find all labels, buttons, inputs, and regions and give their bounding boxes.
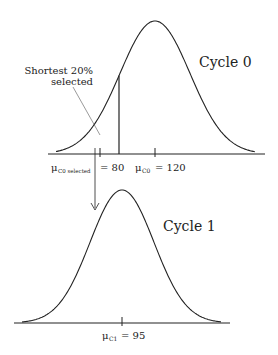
svg-text:μ: μ — [51, 162, 58, 173]
annotation-line2: selected — [51, 76, 94, 87]
cycle1-title: Cycle 1 — [163, 218, 216, 234]
svg-text:C0 selected: C0 selected — [58, 168, 91, 174]
svg-text:C0: C0 — [142, 167, 151, 174]
transition-arrow — [91, 148, 99, 210]
svg-text:C1: C1 — [109, 335, 117, 342]
annotation-leader-line — [73, 87, 100, 135]
selected-mean-label: μ C0 selected = 80 — [51, 162, 124, 174]
svg-text:= 80: = 80 — [100, 162, 124, 173]
cycle1-mean-label: μ C1 = 95 — [102, 330, 145, 342]
selection-diagram: Cycle 0 Shortest 20% selected μ C0 selec… — [0, 0, 278, 355]
cycle1-group: Cycle 1 μ C1 = 95 — [14, 190, 230, 342]
annotation-line1: Shortest 20% — [24, 65, 93, 76]
svg-text:μ: μ — [135, 162, 142, 173]
cycle0-group: Cycle 0 Shortest 20% selected μ C0 selec… — [24, 21, 265, 174]
cycle0-title: Cycle 0 — [199, 54, 252, 70]
svg-text:= 95: = 95 — [121, 330, 145, 341]
svg-text:= 120: = 120 — [155, 162, 186, 173]
cycle1-distribution-curve — [22, 190, 221, 322]
svg-text:μ: μ — [102, 330, 109, 341]
cycle0-mean-label: μ C0 = 120 — [135, 162, 186, 174]
